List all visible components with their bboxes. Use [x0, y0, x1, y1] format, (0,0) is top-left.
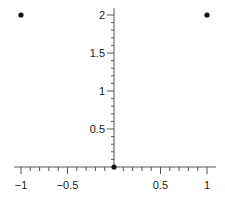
x-tick-label: −0.5 [57, 179, 79, 191]
data-point [18, 12, 23, 17]
data-point [204, 12, 209, 17]
x-tick-label: 1 [204, 179, 210, 191]
y-tick-label: 2 [99, 9, 105, 21]
y-tick-label: 1.5 [90, 47, 105, 59]
y-tick-label: 0.5 [90, 123, 105, 135]
scatter-plot: −1−0.50.51 0.511.52 [0, 0, 225, 202]
x-tick-label: −1 [15, 179, 28, 191]
data-point [111, 164, 116, 169]
x-axis: −1−0.50.51 [14, 167, 216, 191]
y-tick-label: 1 [99, 85, 105, 97]
y-axis: 0.511.52 [90, 8, 114, 167]
x-tick-label: 0.5 [153, 179, 168, 191]
